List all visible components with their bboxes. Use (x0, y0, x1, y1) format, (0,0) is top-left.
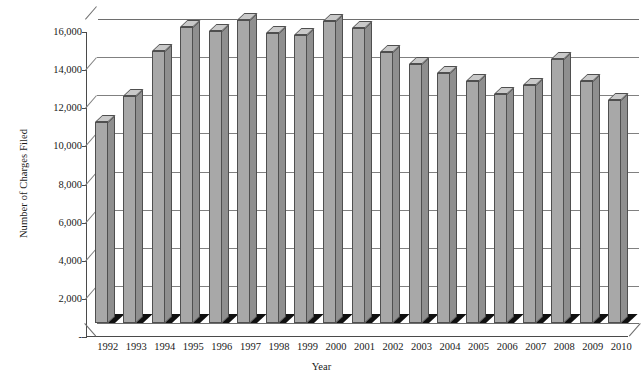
bar-side-face (108, 116, 115, 323)
bar-front-face (209, 31, 222, 323)
bar (437, 73, 458, 323)
bar-front-face (152, 51, 165, 323)
bar (266, 33, 287, 323)
bar-side-face (307, 28, 314, 323)
bar-side-face (393, 46, 400, 323)
bar-side-face (564, 52, 571, 323)
bar-side-face (136, 89, 143, 323)
bar-front-face (266, 33, 279, 323)
bar-front-face (494, 94, 507, 323)
y-axis-tick-label: 8,000 (30, 179, 82, 190)
plot-area (86, 19, 639, 337)
bar-side-face (193, 20, 200, 323)
y-axis-tick-label: 14,000 (30, 65, 82, 76)
bar-side-face (422, 58, 429, 323)
bar-chart: Number of Charges Filed -2,0004,0006,000… (0, 0, 643, 386)
bar-front-face (437, 73, 450, 323)
bar-side-face (507, 87, 514, 323)
y-axis-tick-labels: -2,0004,0006,0008,00010,00012,00014,0001… (30, 0, 82, 386)
bar-side-face (250, 14, 257, 323)
bar (209, 31, 230, 323)
bar (180, 27, 201, 323)
bar-front-face (352, 28, 365, 323)
bar (95, 122, 116, 323)
bar (494, 94, 515, 323)
y-axis-tick-label: 4,000 (30, 256, 82, 267)
bar-front-face (523, 85, 536, 323)
x-axis-tick-labels: 1992199319941995199619971998199920002001… (86, 340, 639, 358)
bar (580, 81, 601, 323)
bar-front-face (180, 27, 193, 323)
bar-front-face (466, 81, 479, 323)
y-axis-tick-label: 6,000 (30, 217, 82, 228)
bar-side-face (165, 44, 172, 323)
chart-floor (86, 323, 639, 337)
bar-side-face (336, 15, 343, 323)
y-axis-title: Number of Charges Filed (18, 104, 29, 264)
bar-side-face (450, 66, 457, 323)
bar (352, 28, 373, 323)
bar-front-face (551, 59, 564, 323)
bar (123, 96, 144, 323)
bar (237, 20, 258, 323)
bar-front-face (608, 100, 621, 323)
bar (323, 21, 344, 323)
bar (608, 100, 629, 323)
bar-front-face (580, 81, 593, 323)
bar-front-face (123, 96, 136, 323)
y-axis-tick-label: 16,000 (30, 27, 82, 38)
bar-side-face (365, 21, 372, 323)
bar-front-face (380, 52, 393, 323)
bar (409, 64, 430, 323)
bar-front-face (294, 35, 307, 323)
y-axis-tick-label: 12,000 (30, 103, 82, 114)
bar-side-face (536, 78, 543, 323)
bar-side-face (479, 75, 486, 323)
bar-front-face (237, 20, 250, 323)
x-axis-line (86, 336, 628, 337)
bar (551, 59, 572, 323)
bar (466, 81, 487, 323)
bar (294, 35, 315, 323)
bar-side-face (279, 27, 286, 323)
bar-front-face (323, 21, 336, 323)
bar-side-face (222, 24, 229, 323)
bar (380, 52, 401, 323)
bar-series (86, 19, 639, 337)
bar-side-face (621, 93, 628, 323)
y-axis-tick-label: 10,000 (30, 141, 82, 152)
x-axis-title: Year (0, 361, 643, 372)
bar-front-face (95, 122, 108, 323)
bar-side-face (593, 74, 600, 323)
floor-back-edge (97, 323, 639, 324)
bar (152, 51, 173, 323)
bar-front-face (409, 64, 422, 323)
bar (523, 85, 544, 323)
y-axis-tick-label: 2,000 (30, 294, 82, 305)
x-axis-tick-label: 2010 (601, 340, 641, 353)
